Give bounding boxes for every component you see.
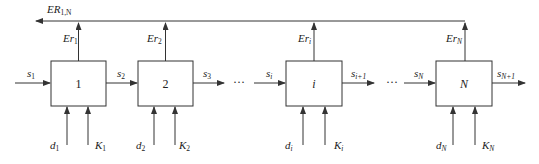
- stage-label: 1: [76, 77, 82, 91]
- stage-2: 2 Er2 d2 K2: [136, 23, 193, 153]
- block-diagram: ER1,N 1 Er1 d1 K1 2 Er2 d2 K2 i Eri di K…: [0, 0, 539, 164]
- d-label: di: [285, 139, 293, 153]
- er-label: ErN: [445, 32, 463, 46]
- s3-label: s3: [203, 67, 211, 81]
- d-label: d1: [50, 139, 60, 153]
- stage-label: 2: [163, 77, 169, 91]
- stage-label: i: [312, 77, 315, 91]
- stage-i: i Eri di Ki: [285, 23, 343, 153]
- ellipsis-1: ···: [233, 75, 245, 89]
- stage-n: N ErN dN KN: [436, 23, 495, 153]
- s1-label: s1: [27, 67, 35, 81]
- k-label: Ki: [333, 139, 343, 153]
- er-label: Eri: [297, 32, 311, 46]
- k-label: K2: [178, 139, 190, 153]
- feedback-label: ER1,N: [46, 3, 72, 17]
- feedback-bus: ER1,N: [36, 3, 465, 21]
- k-label: K1: [94, 139, 106, 153]
- er-label: Er1: [62, 32, 78, 46]
- d-label: d2: [136, 139, 146, 153]
- ellipsis-2: ···: [386, 75, 398, 89]
- sn1-label: sN+1: [497, 67, 515, 81]
- s2-label: s2: [117, 67, 125, 81]
- stage-label: N: [459, 77, 469, 91]
- sn-label: sN: [414, 67, 424, 81]
- k-label: KN: [481, 139, 495, 153]
- si-label: si: [266, 67, 272, 81]
- d-label: dN: [436, 139, 448, 153]
- er-label: Er2: [146, 32, 162, 46]
- si1-label: si+1: [351, 67, 366, 81]
- stage-1: 1 Er1 d1 K1: [50, 23, 106, 153]
